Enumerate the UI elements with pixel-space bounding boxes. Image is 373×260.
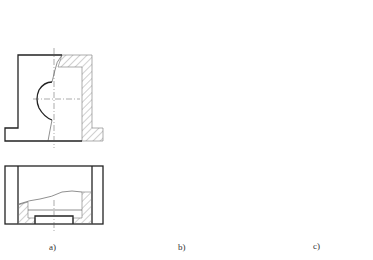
- panel-b-label: b): [178, 242, 186, 252]
- panel-a-top-view: [5, 166, 103, 232]
- engineering-drawing: [0, 0, 373, 260]
- panel-a-front-view: [5, 48, 103, 148]
- panel-c-label: c): [313, 241, 320, 251]
- panel-a-label: a): [49, 242, 56, 252]
